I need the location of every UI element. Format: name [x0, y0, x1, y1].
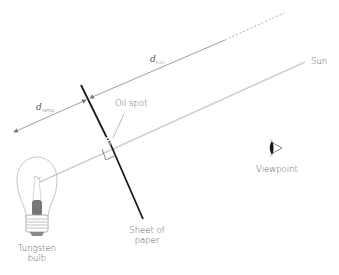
tungsten-bulb-label: Tungsten bulb [14, 243, 60, 263]
viewpoint-label: Viewpoint [256, 164, 298, 174]
viewpoint-eye-icon [270, 139, 282, 157]
tungsten-bulb-icon [17, 157, 57, 236]
oil-spot-leader-line [113, 114, 124, 138]
sheet-of-paper-label: Sheet of paper [127, 225, 167, 245]
d-sun-dotted-extension [225, 13, 284, 40]
d-lamp-label: dlamp [36, 102, 54, 115]
d-sun-dimension-line [90, 40, 225, 98]
diagram-canvas [0, 0, 339, 275]
sun-label: Sun [311, 56, 327, 66]
d-lamp-dimension-line [50, 100, 86, 116]
oil-spot-label: Oil spot [115, 98, 147, 108]
sheet-of-paper-dash [106, 136, 110, 143]
oil-spot-marker [109, 143, 112, 146]
sheet-of-paper-line-lower [110, 143, 143, 219]
d-lamp-dimension-line-start [14, 116, 50, 132]
d-sun-label: dsun [150, 54, 165, 67]
